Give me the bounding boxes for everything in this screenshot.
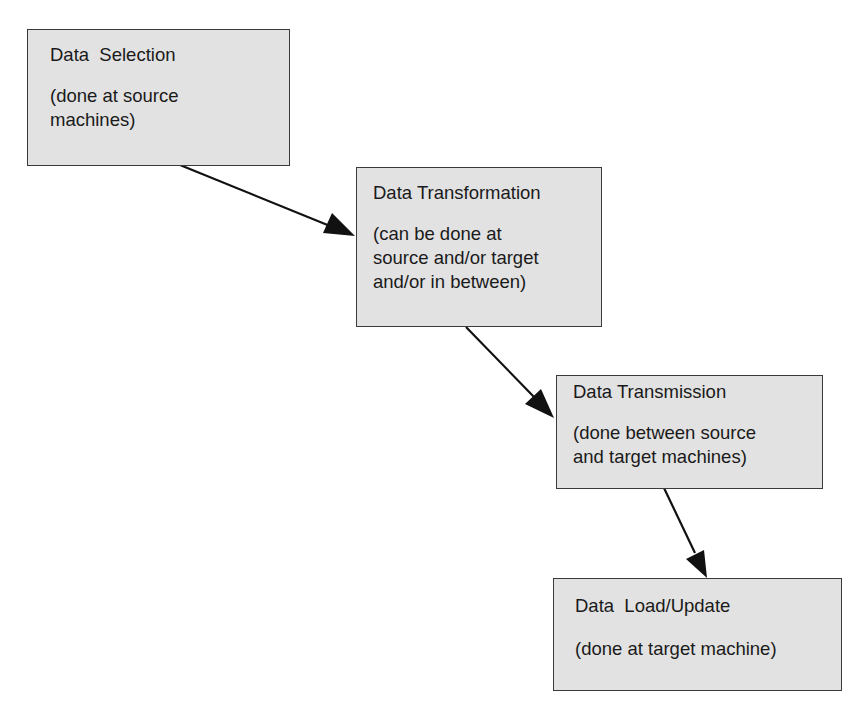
step-description: (done between source and target machines… — [573, 421, 822, 469]
step-description: (can be done at source and/or target and… — [373, 222, 601, 294]
step-data-load-update: Data Load/Update (done at target machine… — [553, 578, 842, 691]
step-description: (done at target machine) — [575, 637, 841, 661]
step-data-selection: Data Selection (done at source machines) — [27, 29, 290, 166]
step-title: Data Transformation — [373, 182, 601, 204]
arrow-transmission-to-loadupdate — [664, 488, 707, 578]
step-description: (done at source machines) — [50, 84, 289, 132]
arrow-transformation-to-transmission — [466, 327, 554, 418]
step-title: Data Load/Update — [575, 595, 841, 617]
step-data-transmission: Data Transmission (done between source a… — [556, 375, 823, 489]
step-data-transformation: Data Transformation (can be done at sour… — [356, 167, 602, 327]
step-title: Data Transmission — [573, 381, 822, 403]
arrow-selection-to-transformation — [180, 165, 355, 236]
step-title: Data Selection — [50, 44, 289, 66]
